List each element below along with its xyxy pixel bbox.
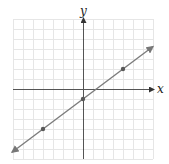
data-point [41,127,45,131]
data-point [121,67,125,71]
coordinate-plane: x y [0,0,169,164]
x-axis-label: x [157,82,164,96]
data-point [81,97,85,101]
y-axis-label: y [79,4,87,18]
